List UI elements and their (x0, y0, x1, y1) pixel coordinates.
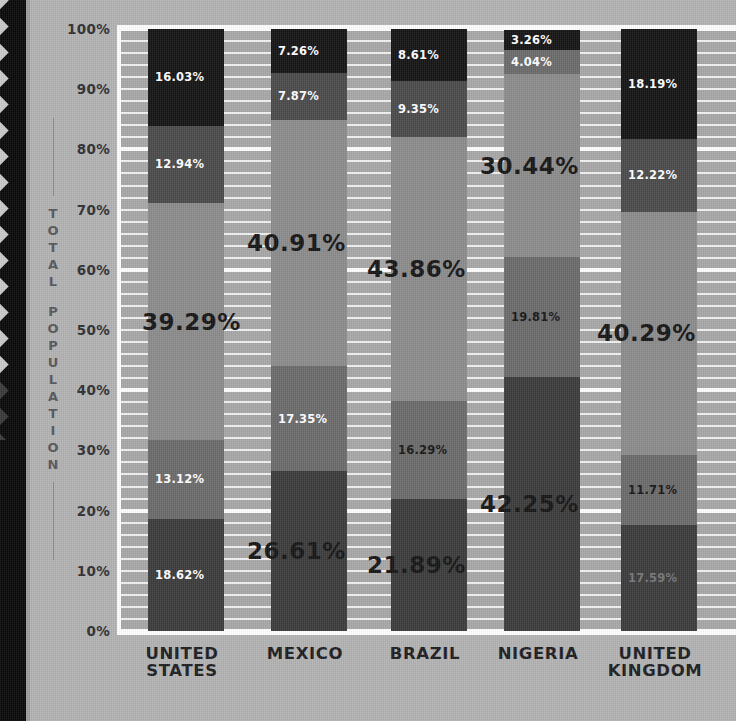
bar-segment[interactable]: 39.29% (148, 203, 224, 440)
y-axis-title-letters: TOTALPOPULATION (47, 199, 58, 479)
bar-segment[interactable]: 30.44% (504, 74, 580, 257)
y-axis-tick-label: 80% (77, 141, 110, 157)
diamond-icon (0, 95, 9, 113)
bar-segment-label: 18.19% (628, 77, 677, 91)
bar-segment-label: 4.04% (511, 55, 552, 69)
bar-segment-label: 42.25% (480, 491, 579, 517)
bar-segment-label: 9.35% (398, 102, 439, 116)
diamond-icon (0, 381, 9, 399)
bar-segment-label: 19.81% (511, 310, 560, 324)
y-axis-title-letter: O (47, 322, 58, 335)
bar-segment-label: 18.62% (155, 568, 204, 582)
bar-segment-label: 40.29% (597, 320, 696, 346)
bar-segment[interactable]: 8.61% (391, 29, 467, 81)
y-axis-tick-label: 10% (77, 563, 110, 579)
bar-segment[interactable]: 4.04% (504, 50, 580, 74)
bar-segment[interactable]: 7.26% (271, 29, 347, 73)
bar-segment[interactable]: 18.62% (148, 519, 224, 631)
x-axis-label-line2: KINGDOM (595, 662, 715, 679)
diamond-icon (0, 0, 9, 10)
bar-segment[interactable]: 17.35% (271, 366, 347, 470)
bar-segment[interactable]: 3.26% (504, 30, 580, 50)
bar-segment-label: 13.12% (155, 472, 204, 486)
y-axis-title-letter: P (48, 339, 58, 352)
bar-segment-label: 40.91% (247, 230, 346, 256)
diamond-icon (0, 355, 9, 373)
bar-group: 18.62%13.12%39.29%12.94%16.03%26.61%17.3… (121, 29, 736, 631)
bar-segment-label: 17.35% (278, 412, 327, 426)
bar-segment-label: 16.03% (155, 70, 204, 84)
y-axis-tick-label: 50% (77, 322, 110, 338)
y-axis-title-letter: A (48, 258, 58, 271)
diamond-icon (0, 17, 9, 35)
y-axis-tick-label: 0% (86, 623, 110, 639)
y-axis-title-letter: U (48, 356, 59, 369)
bar-segment[interactable]: 16.29% (391, 401, 467, 499)
bar-segment[interactable]: 19.81% (504, 257, 580, 376)
y-axis-title-letter: L (49, 275, 57, 288)
x-axis-label: MEXICO (245, 645, 365, 662)
bar-segment[interactable]: 11.71% (621, 455, 697, 525)
bar-segment[interactable]: 7.87% (271, 73, 347, 120)
bar-segment[interactable]: 12.94% (148, 126, 224, 204)
bar-segment-label: 11.71% (628, 483, 677, 497)
y-axis-title-letter: P (48, 305, 58, 318)
y-axis-tick-label: 100% (67, 21, 110, 37)
bar-segment-label: 12.22% (628, 168, 677, 182)
bar-segment[interactable]: 40.29% (621, 212, 697, 455)
y-axis-tick-label: 70% (77, 202, 110, 218)
bar-segment-label: 12.94% (155, 157, 204, 171)
y-axis-title-letter: I (51, 424, 56, 437)
diamond-pattern (0, 0, 26, 440)
plot-area: 18.62%13.12%39.29%12.94%16.03%26.61%17.3… (117, 25, 736, 635)
y-axis-title-letter: O (47, 441, 58, 454)
bar-segment-label: 17.59% (628, 571, 677, 585)
x-axis-label-line1: NIGERIA (498, 644, 579, 663)
bar-segment-label: 7.26% (278, 44, 319, 58)
x-axis-label-line2: STATES (122, 662, 242, 679)
bar-segment[interactable]: 26.61% (271, 471, 347, 631)
bar-segment[interactable]: 40.91% (271, 120, 347, 366)
stacked-bar[interactable]: 18.62%13.12%39.29%12.94%16.03% (148, 29, 224, 631)
y-axis-tick-label: 60% (77, 262, 110, 278)
diamond-icon (0, 329, 9, 347)
bar-segment[interactable]: 43.86% (391, 137, 467, 401)
bar-segment-label: 26.61% (247, 538, 346, 564)
diamond-icon (0, 173, 9, 191)
diamond-icon (0, 407, 9, 425)
x-axis-label-line1: UNITED (145, 644, 218, 663)
decorative-left-band (0, 0, 26, 721)
bar-segment-label: 8.61% (398, 48, 439, 62)
bar-segment[interactable]: 16.03% (148, 29, 224, 126)
y-axis-tick-label: 20% (77, 503, 110, 519)
bar-segment[interactable]: 21.89% (391, 499, 467, 631)
bar-segment-label: 21.89% (367, 552, 466, 578)
x-axis-label-line1: UNITED (618, 644, 691, 663)
stacked-bar[interactable]: 17.59%11.71%40.29%12.22%18.19% (621, 29, 697, 631)
diamond-icon (0, 433, 9, 440)
bar-segment[interactable]: 17.59% (621, 525, 697, 631)
bar-segment-label: 43.86% (367, 256, 466, 282)
diamond-icon (0, 277, 9, 295)
diamond-icon (0, 69, 9, 87)
bar-segment[interactable]: 9.35% (391, 81, 467, 137)
bar-segment[interactable]: 42.25% (504, 377, 580, 631)
diamond-icon (0, 199, 9, 217)
y-axis-tick-label: 90% (77, 81, 110, 97)
x-axis-label: BRAZIL (365, 645, 485, 662)
y-axis-title-letter: O (47, 224, 58, 237)
stacked-bar[interactable]: 42.25%19.81%30.44%4.04%3.26% (504, 29, 580, 631)
x-axis-labels: UNITEDSTATESMEXICOBRAZILNIGERIAUNITEDKIN… (117, 645, 736, 705)
stacked-bar[interactable]: 21.89%16.29%43.86%9.35%8.61% (391, 29, 467, 631)
diamond-icon (0, 303, 9, 321)
y-axis-tick-label: 30% (77, 442, 110, 458)
bar-segment-label: 39.29% (142, 309, 241, 335)
bar-segment[interactable]: 13.12% (148, 440, 224, 519)
axis-rule-top (53, 118, 54, 196)
x-axis-label: UNITEDSTATES (122, 645, 242, 680)
bar-segment[interactable]: 12.22% (621, 139, 697, 213)
stacked-bar[interactable]: 26.61%17.35%40.91%7.87%7.26% (271, 29, 347, 631)
bar-segment[interactable]: 18.19% (621, 29, 697, 139)
bar-segment-label: 7.87% (278, 89, 319, 103)
axis-rule-bottom (53, 482, 54, 560)
